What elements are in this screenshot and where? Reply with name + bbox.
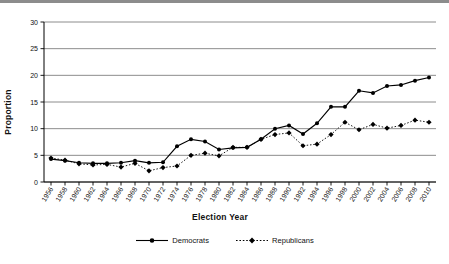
data-point-marker: [370, 122, 375, 127]
x-tick-label: 1986: [250, 186, 264, 203]
x-tick-label: 2004: [376, 186, 390, 203]
legend-label-republicans: Republicans: [272, 236, 314, 245]
x-tick-label: 1976: [180, 186, 194, 203]
y-tick-label: 10: [30, 125, 38, 132]
x-tick-label: 2006: [390, 186, 404, 203]
x-tick-label: 1960: [68, 186, 82, 203]
legend-key-republicans-icon: [235, 236, 269, 245]
x-tick-label: 1990: [278, 186, 292, 203]
x-tick-label: 1964: [96, 186, 110, 203]
y-tick-label: 30: [30, 19, 38, 26]
series-line-democrats: [51, 77, 429, 163]
x-tick-label: 1968: [124, 186, 138, 203]
x-tick-label: 1982: [222, 186, 236, 203]
x-tick-label: 2008: [404, 186, 418, 203]
data-point-marker: [188, 153, 193, 158]
data-point-marker: [329, 105, 333, 109]
data-point-marker: [287, 123, 291, 127]
data-point-marker: [230, 145, 235, 150]
x-tick-label: 1980: [208, 186, 222, 203]
data-point-marker: [314, 142, 319, 147]
x-tick-label: 1956: [40, 186, 54, 203]
data-point-marker: [412, 118, 417, 123]
data-point-marker: [119, 161, 123, 165]
x-tick-label: 1974: [166, 186, 180, 203]
x-axis-title: Election Year: [70, 212, 370, 222]
data-point-marker: [427, 75, 431, 79]
x-tick-label: 1988: [264, 186, 278, 203]
data-point-marker: [244, 145, 249, 150]
x-tick-label: 2000: [348, 186, 362, 203]
legend-label-democrats: Democrats: [172, 236, 209, 245]
y-tick-label: 20: [30, 72, 38, 79]
data-point-marker: [62, 158, 67, 163]
x-tick-label: 1970: [138, 186, 152, 203]
x-tick-label: 2010: [418, 186, 432, 203]
data-point-marker: [189, 137, 193, 141]
data-point-marker: [413, 79, 417, 83]
x-tick-label: 1992: [292, 186, 306, 203]
legend-item-democrats: Democrats: [135, 236, 209, 245]
x-tick-label: 1958: [54, 186, 68, 203]
y-tick-labels-group: 051015202530: [30, 19, 44, 186]
chart-figure: 051015202530 195619581960196219641966196…: [0, 0, 449, 264]
x-tick-label: 1994: [306, 186, 320, 203]
x-tick-label: 1998: [334, 186, 348, 203]
x-tick-labels-group: 1956195819601962196419661968197019721974…: [40, 182, 432, 203]
y-tick-label: 25: [30, 45, 38, 52]
data-point-marker: [398, 123, 403, 128]
legend-item-republicans: Republicans: [235, 236, 314, 245]
data-point-marker: [147, 161, 151, 165]
data-point-marker: [175, 144, 179, 148]
data-point-marker: [146, 168, 151, 173]
data-point-marker: [203, 139, 207, 143]
data-point-marker: [356, 127, 361, 132]
chart-legend: Democrats Republicans: [0, 236, 449, 245]
gridlines-group: [44, 22, 436, 182]
y-axis-title-wrap: Proportion: [0, 62, 16, 168]
x-tick-label: 1966: [110, 186, 124, 203]
data-point-marker: [161, 160, 165, 164]
x-tick-label: 1996: [320, 186, 334, 203]
x-tick-label: 1978: [194, 186, 208, 203]
y-tick-label: 15: [30, 99, 38, 106]
y-tick-label: 0: [34, 179, 38, 186]
data-point-marker: [286, 130, 291, 135]
data-point-marker: [160, 165, 165, 170]
data-point-marker: [216, 153, 221, 158]
y-axis-title: Proportion: [3, 59, 13, 165]
data-point-marker: [357, 89, 361, 93]
data-point-marker: [343, 105, 347, 109]
data-point-marker: [273, 127, 277, 131]
data-point-marker: [118, 164, 123, 169]
line-chart-plot: 051015202530 195619581960196219641966196…: [0, 0, 449, 264]
x-tick-label: 2002: [362, 186, 376, 203]
data-point-marker: [426, 120, 431, 125]
x-tick-label: 1972: [152, 186, 166, 203]
legend-key-democrats-icon: [135, 236, 169, 245]
data-point-marker: [301, 132, 305, 136]
data-point-marker: [272, 132, 277, 137]
y-tick-label: 5: [34, 152, 38, 159]
data-point-marker: [385, 84, 389, 88]
data-point-marker: [217, 147, 221, 151]
data-point-marker: [315, 121, 319, 125]
data-point-marker: [384, 126, 389, 131]
data-point-marker: [399, 83, 403, 87]
data-series-group: [48, 75, 431, 173]
data-point-marker: [371, 91, 375, 95]
x-tick-label: 1962: [82, 186, 96, 203]
x-tick-label: 1984: [236, 186, 250, 203]
